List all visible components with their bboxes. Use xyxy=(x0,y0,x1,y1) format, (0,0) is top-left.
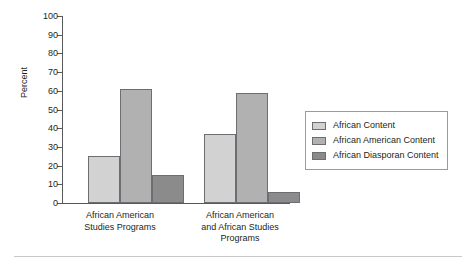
plot-area: 100 90 80 70 60 50 40 30 xyxy=(62,16,290,204)
y-tick-label-70: 70 xyxy=(48,68,58,77)
x-category-label-1: African American and African Studies Pro… xyxy=(178,210,302,245)
y-tick-label-10: 10 xyxy=(48,180,58,189)
legend-label-african-american-content: African American Content xyxy=(333,136,435,145)
chart-legend: African Content African American Content… xyxy=(305,111,448,170)
x-category-label-1-line1: African American xyxy=(178,210,302,222)
x-axis-line xyxy=(62,203,290,204)
legend-item-african-diasporan-content: African Diasporan Content xyxy=(312,148,439,163)
x-category-label-0-line2: Studies Programs xyxy=(62,222,178,234)
y-tick-label-0: 0 xyxy=(53,199,58,208)
legend-swatch-african-content xyxy=(312,122,326,130)
bar-group1-african-american-content xyxy=(236,93,268,203)
y-tick-label-50: 50 xyxy=(48,105,58,114)
y-axis-title: Percent xyxy=(20,67,29,98)
y-tick-label-90: 90 xyxy=(48,30,58,39)
legend-swatch-african-diasporan-content xyxy=(312,152,326,160)
legend-item-african-content: African Content xyxy=(312,118,439,133)
x-category-label-0-line1: African American xyxy=(62,210,178,222)
x-category-label-0: African American Studies Programs xyxy=(62,210,178,233)
bar-group0-african-american-content xyxy=(120,89,152,203)
y-axis-line xyxy=(62,16,63,204)
legend-item-african-american-content: African American Content xyxy=(312,133,439,148)
x-category-label-1-line2: and African Studies xyxy=(178,222,302,234)
y-tick-label-30: 30 xyxy=(48,142,58,151)
bar-group0-african-diasporan-content xyxy=(152,175,184,203)
y-tick-label-40: 40 xyxy=(48,124,58,133)
bar-group1-african-diasporan-content xyxy=(268,192,300,203)
legend-swatch-african-american-content xyxy=(312,137,326,145)
bar-chart-figure: Percent 100 90 80 70 60 50 xyxy=(0,0,476,264)
legend-label-african-diasporan-content: African Diasporan Content xyxy=(333,151,439,160)
y-tick-label-80: 80 xyxy=(48,49,58,58)
legend-label-african-content: African Content xyxy=(333,121,395,130)
y-tick-label-100: 100 xyxy=(43,12,58,21)
bar-group1-african-content xyxy=(204,134,236,203)
bar-group0-african-content xyxy=(88,156,120,203)
y-tick-label-60: 60 xyxy=(48,86,58,95)
x-category-label-1-line3: Programs xyxy=(178,233,302,245)
y-tick-label-20: 20 xyxy=(48,161,58,170)
footer-divider xyxy=(14,256,462,257)
